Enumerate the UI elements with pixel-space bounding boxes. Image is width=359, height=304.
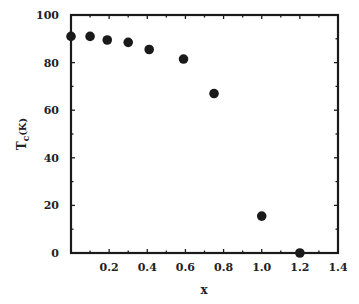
data-point xyxy=(209,89,219,99)
x-tick-label: 1.0 xyxy=(252,261,271,274)
x-tick-label: 0.8 xyxy=(214,261,233,274)
y-tick-label: 60 xyxy=(44,104,60,117)
y-axis-title-unit: (K) xyxy=(17,118,28,136)
y-axis-title-main: T xyxy=(15,141,29,150)
x-axis-title: x xyxy=(200,283,208,297)
data-points xyxy=(66,32,304,258)
y-tick-label: 40 xyxy=(44,152,60,165)
x-tick-label: 0.2 xyxy=(100,261,119,274)
y-axis-title: Tc(K) xyxy=(15,118,31,151)
y-tick-label: 20 xyxy=(44,199,60,212)
data-point xyxy=(123,38,133,48)
x-tick-label: 1.2 xyxy=(290,261,309,274)
data-point xyxy=(144,45,154,55)
x-tick-label: 1.4 xyxy=(328,261,347,274)
y-tick-labels: 020406080100 xyxy=(36,9,59,260)
x-tick-labels: 0.20.40.60.81.01.21.4 xyxy=(100,261,348,274)
svg-text:Tc(K): Tc(K) xyxy=(15,118,31,151)
data-point xyxy=(295,248,305,258)
data-point xyxy=(179,54,189,64)
data-point xyxy=(257,211,267,221)
x-tick-label: 0.4 xyxy=(138,261,157,274)
data-point xyxy=(66,32,76,42)
y-tick-label: 80 xyxy=(44,57,60,70)
scatter-chart: 020406080100 0.20.40.60.81.01.21.4 x Tc(… xyxy=(0,0,359,304)
plot-border xyxy=(71,15,338,253)
y-tick-label: 100 xyxy=(36,9,59,22)
y-tick-label: 0 xyxy=(51,247,59,260)
plot-frame xyxy=(71,15,338,253)
data-point xyxy=(85,32,95,42)
x-tick-label: 0.6 xyxy=(176,261,195,274)
data-point xyxy=(102,35,112,45)
axis-ticks xyxy=(71,15,338,253)
